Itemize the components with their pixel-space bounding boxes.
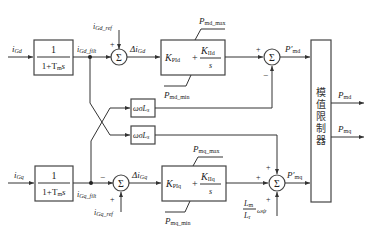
sign-sum2-bottom-q: +: [266, 195, 271, 204]
pi-den-q: s: [209, 187, 212, 196]
sign-ref-d: +: [110, 40, 115, 49]
label-igq-filt: iGq_filt: [77, 190, 97, 199]
coupling-line-q-to-d: [91, 108, 130, 183]
label-pmq-prime: P′mq: [286, 170, 302, 180]
label-igd: iGd: [12, 44, 23, 54]
sign-sum2-fb-d: −: [263, 70, 268, 80]
label-pmd-min: Pmd_min: [163, 90, 190, 100]
top-row: iGd 1 1+Tms iGd_filt Σ iGd_ref + ΔiGd KP…: [8, 16, 310, 100]
limiter-char-3: 限: [316, 111, 326, 122]
label-pmd-max: Pmd_max: [198, 16, 226, 26]
control-diagram: iGd 1 1+Tms iGd_filt Σ iGd_ref + ΔiGd KP…: [0, 0, 376, 239]
limit-min-leader-d: [164, 75, 191, 86]
coupling-line-d-to-q: [90, 57, 130, 135]
label-igd-ref: iGd_ref: [93, 22, 113, 31]
ff-den: Lr: [243, 211, 250, 220]
limit-min-leader-q: [165, 201, 190, 212]
limiter-char-5: 器: [316, 135, 326, 146]
filter-den-d: 1+Tms: [42, 61, 66, 71]
cross-coupling: ωσLs ωσLs: [90, 57, 277, 183]
sum-symbol-q1: Σ: [118, 178, 124, 189]
ff-num: Lm: [243, 199, 253, 208]
sign-sum2-in-d: +: [256, 45, 261, 54]
sign-fb-q: −: [100, 172, 105, 182]
label-pmd: Pmd: [337, 90, 351, 100]
limiter-char-1: 模: [316, 87, 326, 98]
limit-max-leader-q: [193, 157, 223, 166]
sign-ref-q: +: [110, 195, 115, 204]
label-delta-igq: ΔiGq: [131, 170, 147, 180]
sum-symbol-d1: Σ: [116, 52, 122, 63]
filter-num-q: 1: [52, 170, 57, 181]
label-igq-ref: iGq_ref: [94, 208, 114, 217]
sum-symbol-d2: Σ: [269, 52, 275, 63]
limiter-char-4: 制: [316, 122, 326, 134]
ff-omega-psi: ωψ: [257, 207, 267, 215]
label-pmq-min: Pmq_min: [164, 216, 191, 226]
limiter-char-2: 值: [316, 98, 326, 110]
label-igd-filt: iGd_filt: [77, 45, 97, 54]
sum-symbol-q2: Σ: [274, 178, 280, 189]
label-delta-igd: ΔiGd: [129, 44, 146, 54]
sign-sum2-in-q: +: [256, 173, 261, 182]
label-igq: iGq: [14, 170, 24, 180]
filter-num-d: 1: [51, 44, 56, 55]
limit-max-leader-d: [195, 29, 225, 40]
junction-dot-q: [89, 181, 93, 185]
magnitude-limiter: 模 值 限 制 器 Pmd Pmq: [311, 40, 364, 202]
label-pmq-max: Pmq_max: [192, 144, 220, 154]
sign-sum2-top-q: +: [266, 163, 271, 172]
bottom-row: iGq 1 1+Tms iGq_filt − Σ + iGq_ref ΔiGq …: [8, 144, 310, 226]
filter-den-q: 1+Tms: [42, 187, 66, 197]
pi-den-d: s: [209, 61, 212, 70]
label-pmd-prime: P′md: [284, 44, 300, 54]
label-pmq: Pmq: [337, 124, 351, 134]
pi-plus-q: +: [192, 178, 198, 189]
pi-plus-d: +: [192, 52, 198, 63]
